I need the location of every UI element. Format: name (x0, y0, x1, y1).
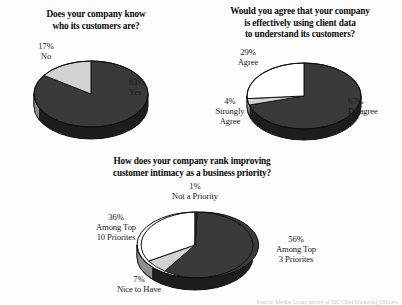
slice-name: Yes (129, 87, 141, 97)
slice-label-agree: 29%Agree (222, 47, 274, 67)
slice-name: Not a Priority (172, 191, 218, 201)
slice-pct: 83% (129, 77, 144, 87)
slice-name: Agree (238, 57, 259, 67)
slice-pct: 1% (189, 181, 200, 191)
slice-label-disagree: 67%Disagree (348, 96, 402, 116)
chart-client-data-effectiveness: Would you agree that your company is eff… (196, 0, 402, 146)
slice-label-yes: 83%Yes (129, 77, 179, 97)
chart-customers-known: Does your company know who its customers… (0, 0, 196, 146)
chart-title: How does your company rank improving cus… (76, 156, 308, 179)
slice-pct: 56% (288, 234, 303, 244)
slice-label-nice-to-have: 7%Nice to Have (98, 274, 180, 294)
slice-label-no: 17%No (22, 41, 70, 61)
slice-label-among-top-10: 36%Among Top 10 Priorites (83, 212, 149, 243)
slice-pct: 7% (133, 274, 144, 284)
slice-pct: 36% (108, 212, 123, 222)
slice-label-not-a-priority: 1%Not a Priority (150, 181, 240, 201)
slice-name: Nice to Have (117, 284, 161, 294)
source-note: Source: Merkle Group survey of 500 Chief… (257, 299, 398, 305)
slice-pct: 29% (240, 47, 255, 57)
chart-title: Does your company know who its customers… (6, 9, 186, 32)
chart-title: Would you agree that your company is eff… (204, 6, 396, 41)
slice-label-among-top-3: 56%Among Top 3 Priorites (259, 234, 333, 265)
chart-customer-intimacy-priority: How does your company rank improving cus… (60, 150, 360, 304)
slice-name: No (41, 51, 51, 61)
slice-label-strongly-agree: 4%Strongly Agree (204, 96, 256, 127)
slice-pct: 17% (38, 41, 53, 51)
slice-name: Disagree (348, 106, 378, 116)
slice-name: Strongly Agree (216, 106, 245, 126)
slice-name: Among Top 10 Priorites (96, 222, 136, 242)
slice-name: Among Top 3 Priorites (276, 244, 316, 264)
slice-pct: 4% (224, 96, 235, 106)
slice-pct: 67% (348, 96, 363, 106)
